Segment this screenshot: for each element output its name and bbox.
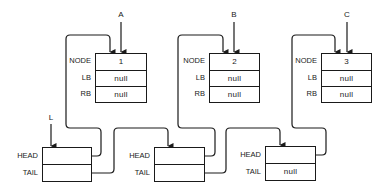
node1-lb-field: null <box>96 71 146 88</box>
node1-node-field: 1 <box>96 54 146 71</box>
list-cell-2 <box>154 147 205 182</box>
list-cell-3: null <box>265 146 316 181</box>
pointer-label-b: B <box>228 10 240 19</box>
pointer-label-a: A <box>115 10 127 19</box>
cell1-tail-field <box>43 165 91 180</box>
node1-label-lb: LB <box>57 73 91 83</box>
node2-label-node: NODE <box>171 56 205 66</box>
tree-node-1: 1 null null <box>95 53 147 103</box>
node2-node-field: 2 <box>210 54 259 71</box>
node3-lb-field: null <box>322 71 371 88</box>
cell3-label-tail: TAIL <box>227 167 261 177</box>
cell1-head-field <box>43 148 91 165</box>
node2-label-rb: RB <box>171 89 205 99</box>
cell3-head-field <box>266 147 315 164</box>
node1-label-node: NODE <box>57 56 91 66</box>
cell2-head-field <box>155 148 204 165</box>
node2-rb-field: null <box>210 87 259 101</box>
node3-rb-field: null <box>322 87 371 101</box>
node2-lb-field: null <box>210 71 259 88</box>
node3-node-field: 3 <box>322 54 371 71</box>
node3-label-node: NODE <box>283 56 317 66</box>
tree-node-2: 2 null null <box>209 53 260 103</box>
list-cell-1 <box>42 147 92 182</box>
cell2-label-head: HEAD <box>116 151 150 161</box>
cell2-label-tail: TAIL <box>116 168 150 178</box>
cell1-label-head: HEAD <box>4 151 38 161</box>
cell2-tail-field <box>155 165 204 180</box>
node3-label-rb: RB <box>283 89 317 99</box>
cell3-label-head: HEAD <box>227 150 261 160</box>
node1-label-rb: RB <box>57 89 91 99</box>
node1-rb-field: null <box>96 87 146 101</box>
pointer-label-l: L <box>45 113 57 122</box>
cell1-label-tail: TAIL <box>4 168 38 178</box>
node3-label-lb: LB <box>283 73 317 83</box>
node2-label-lb: LB <box>171 73 205 83</box>
tree-node-3: 3 null null <box>321 53 372 103</box>
cell3-tail-field: null <box>266 164 315 179</box>
pointer-label-c: C <box>341 10 353 19</box>
